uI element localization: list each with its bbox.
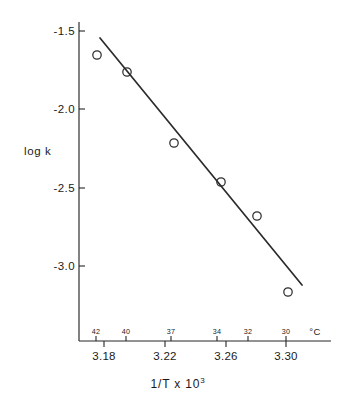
plot-canvas: -1.5 -2.0 -2.5 -3.0 log k 3.18 3.22 3.26… <box>0 0 340 405</box>
data-points <box>93 51 292 296</box>
y-axis-title: log k <box>24 145 51 157</box>
x-tick-label: 3.18 <box>92 350 116 362</box>
x-axis-title-exponent: 3 <box>200 376 205 385</box>
x-axis-title: 1/T x 103 <box>151 376 206 391</box>
temperature-axis-ticks <box>96 336 286 341</box>
x-tick-label: 3.22 <box>153 350 177 362</box>
y-tick-label: -1.5 <box>54 25 75 37</box>
temperature-tick-label: 40 <box>122 327 130 336</box>
x-axis-title-main: 1/T x 10 <box>151 377 201 391</box>
temperature-axis-unit-label: °C <box>309 326 320 337</box>
temperature-tick-label: 30 <box>282 327 290 336</box>
temperature-tick-label: 32 <box>244 327 252 336</box>
y-tick-label: -3.0 <box>54 260 75 272</box>
temperature-tick-label: 34 <box>213 327 221 336</box>
y-tick-label: -2.0 <box>54 103 75 115</box>
data-point <box>284 288 292 296</box>
arrhenius-plot: -1.5 -2.0 -2.5 -3.0 log k 3.18 3.22 3.26… <box>0 0 340 405</box>
data-point <box>170 139 178 147</box>
temperature-tick-label: 42 <box>92 327 100 336</box>
y-axis-ticks <box>79 31 85 266</box>
x-axis-ticks <box>104 341 286 347</box>
x-tick-label: 3.30 <box>274 350 298 362</box>
temperature-tick-label: 37 <box>167 327 175 336</box>
x-tick-label: 3.26 <box>214 350 238 362</box>
data-point <box>253 212 261 220</box>
y-tick-label: -2.5 <box>54 182 75 194</box>
data-point <box>93 51 101 59</box>
